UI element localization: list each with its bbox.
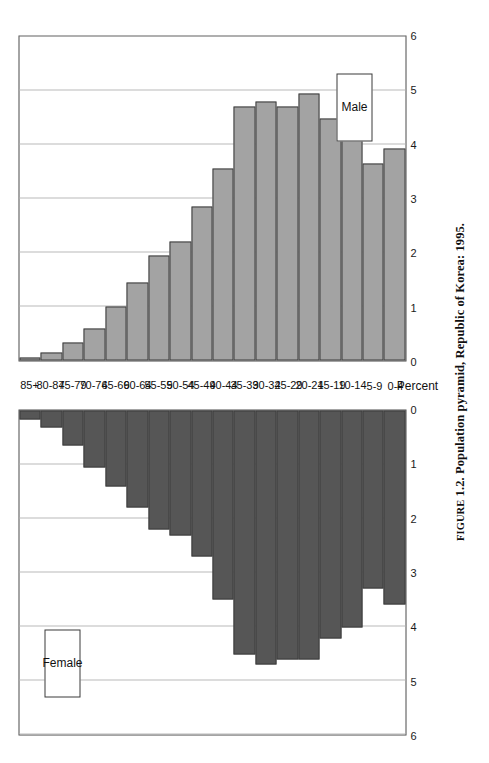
- bar-row: [341, 410, 362, 734]
- tick-label-4: 4: [398, 620, 428, 632]
- bar-row: [212, 36, 233, 360]
- caption-figure-word: FIGURE: [454, 499, 465, 540]
- figure-caption: FIGURE 1.2. Population pyramid, Republic…: [452, 0, 467, 763]
- legend-male-label: Male: [341, 100, 367, 114]
- bar-female-5-9: [362, 410, 383, 588]
- bar-row: [19, 36, 40, 360]
- bar-row: [191, 410, 212, 734]
- caption-figure-text: Population pyramid, Republic of Korea: 1…: [452, 222, 466, 473]
- bar-female-10-14: [341, 410, 362, 627]
- tick-label-2: 2: [398, 512, 428, 524]
- bar-male-85+: [19, 357, 40, 360]
- bar-row: [40, 36, 61, 360]
- age-label-text: 5-9: [366, 379, 382, 391]
- bar-male-55-59: [148, 255, 169, 360]
- bar-row: [83, 410, 104, 734]
- bar-row: [19, 410, 40, 734]
- female-axis-tick-labels: 0123456: [407, 409, 427, 735]
- bar-row: [126, 36, 147, 360]
- tick-label-6: 6: [398, 729, 428, 741]
- bar-female-50-54: [169, 410, 190, 535]
- bar-row: [255, 410, 276, 734]
- bar-row: [169, 410, 190, 734]
- bar-row: [233, 410, 254, 734]
- bar-female-45-49: [191, 410, 212, 556]
- age-group-labels: 85+80-8475-7970-7465-6960-6455-5950-5445…: [18, 361, 406, 409]
- tick-label-6: 6: [398, 29, 428, 41]
- axis-title-percent: Percent: [410, 353, 424, 417]
- bar-female-15-19: [319, 410, 340, 638]
- bar-male-70-74: [83, 328, 104, 360]
- bar-male-35-39: [233, 106, 254, 360]
- bar-row: [62, 36, 83, 360]
- bar-row: [298, 410, 319, 734]
- age-label-text: 10-14: [338, 379, 366, 391]
- axis-title-percent-text: Percent: [396, 378, 437, 392]
- bar-female-85+: [19, 410, 40, 419]
- tick-label-2: 2: [398, 246, 428, 258]
- bar-female-20-24: [298, 410, 319, 659]
- bar-row: [276, 410, 297, 734]
- bar-female-55-59: [148, 410, 169, 529]
- tick-label-1: 1: [398, 457, 428, 469]
- bar-row: [362, 410, 383, 734]
- bar-row: [233, 36, 254, 360]
- bar-female-60-64: [126, 410, 147, 507]
- bar-male-50-54: [169, 241, 190, 360]
- figure-stage: 85+80-8475-7970-7465-6960-6455-5950-5445…: [0, 0, 489, 763]
- bar-female-80-84: [40, 410, 61, 427]
- tick-label-1: 1: [398, 301, 428, 313]
- legend-female: Female: [44, 629, 80, 697]
- bar-female-25-29: [276, 410, 297, 659]
- bar-row: [255, 36, 276, 360]
- bar-female-70-74: [83, 410, 104, 467]
- bar-male-75-79: [62, 342, 83, 360]
- chart-area: 85+80-8475-7970-7465-6960-6455-5950-5445…: [18, 35, 438, 735]
- tick-label-4: 4: [398, 138, 428, 150]
- bar-male-45-49: [191, 206, 212, 360]
- bar-male-80-84: [40, 352, 61, 360]
- population-pyramid-figure: 85+80-8475-7970-7465-6960-6455-5950-5445…: [0, 0, 489, 763]
- bar-female-35-39: [233, 410, 254, 654]
- age-label-5-9: 5-9: [363, 361, 385, 409]
- bar-row: [105, 36, 126, 360]
- bar-row: [126, 410, 147, 734]
- bar-row: [191, 36, 212, 360]
- bar-male-65-69: [105, 306, 126, 360]
- bar-male-15-19: [319, 118, 340, 360]
- bar-row: [169, 36, 190, 360]
- tick-label-3: 3: [398, 566, 428, 578]
- age-label-10-14: 10-14: [341, 361, 363, 409]
- tick-label-5: 5: [398, 675, 428, 687]
- tick-label-5: 5: [398, 83, 428, 95]
- bar-male-10-14: [341, 123, 362, 360]
- bar-row: [319, 410, 340, 734]
- bar-female-75-79: [62, 410, 83, 445]
- bar-row: [212, 410, 233, 734]
- bar-female-40-44: [212, 410, 233, 599]
- bar-male-25-29: [276, 106, 297, 360]
- bar-male-30-34: [255, 101, 276, 360]
- legend-male: Male: [336, 73, 372, 141]
- bar-male-20-24: [298, 93, 319, 360]
- age-label-text: 85+: [19, 379, 38, 391]
- bar-row: [298, 36, 319, 360]
- male-axis-tick-labels: 0123456: [407, 35, 427, 361]
- bar-row: [105, 410, 126, 734]
- tick-label-3: 3: [398, 192, 428, 204]
- legend-female-label: Female: [42, 656, 82, 670]
- bar-male-40-44: [212, 168, 233, 360]
- bar-row: [148, 36, 169, 360]
- bar-male-60-64: [126, 282, 147, 360]
- bar-row: [148, 410, 169, 734]
- bar-row: [83, 36, 104, 360]
- bar-male-5-9: [362, 163, 383, 360]
- bar-female-65-69: [105, 410, 126, 486]
- bar-female-30-34: [255, 410, 276, 664]
- caption-figure-number: 1.2.: [452, 477, 466, 496]
- bar-row: [276, 36, 297, 360]
